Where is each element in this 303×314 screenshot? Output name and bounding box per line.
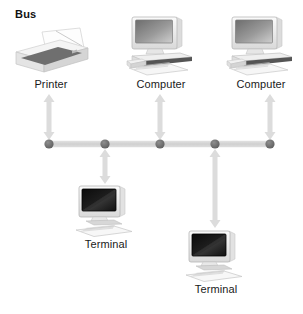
connection-arrow xyxy=(210,149,221,228)
bus-node-3[interactable] xyxy=(155,139,164,148)
connection-arrow xyxy=(265,94,276,140)
connection-arrow xyxy=(100,149,111,184)
bus-node-5[interactable] xyxy=(265,139,274,148)
bus-node-2[interactable] xyxy=(100,139,109,148)
device-icons xyxy=(16,17,292,282)
bus-node-1[interactable] xyxy=(44,139,53,148)
printer-icon[interactable] xyxy=(16,28,88,72)
device-label-computer-2: Computer xyxy=(220,78,302,90)
diagram-canvas xyxy=(0,0,303,314)
terminal-icon[interactable] xyxy=(76,186,132,237)
bus-topology-diagram: Bus xyxy=(0,0,303,314)
device-node-computer-2[interactable] xyxy=(227,17,292,75)
device-node-printer[interactable] xyxy=(16,28,88,72)
desktop-computer-icon[interactable] xyxy=(227,17,292,75)
device-label-printer: Printer xyxy=(12,78,90,90)
bus-node-4[interactable] xyxy=(210,139,219,148)
desktop-computer-icon[interactable] xyxy=(127,17,192,75)
device-label-terminal-1: Terminal xyxy=(70,238,142,250)
device-node-computer-1[interactable] xyxy=(127,17,192,75)
device-node-terminal-2[interactable] xyxy=(186,231,242,282)
device-label-computer-1: Computer xyxy=(120,78,202,90)
connection-arrows xyxy=(44,94,276,228)
connection-arrow xyxy=(155,94,166,140)
device-label-terminal-2: Terminal xyxy=(180,283,252,295)
terminal-icon[interactable] xyxy=(186,231,242,282)
connection-arrow xyxy=(44,94,55,140)
device-node-terminal-1[interactable] xyxy=(76,186,132,237)
